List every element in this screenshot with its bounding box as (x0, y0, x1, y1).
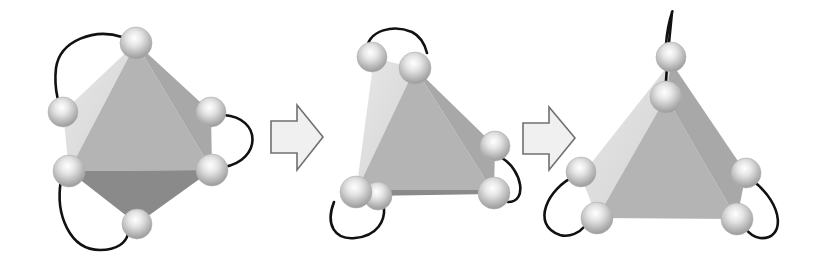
loop-line (745, 180, 778, 238)
vertex-sphere (721, 203, 753, 235)
octahedron-to-tetrahedron-diagram (0, 0, 825, 269)
vertex-sphere (48, 97, 78, 127)
vertex-sphere (656, 42, 686, 72)
diagram-canvas (0, 0, 825, 269)
vertex-sphere (650, 81, 682, 113)
vertex-sphere (196, 97, 226, 127)
vertex-sphere (340, 176, 372, 208)
arrow-1-right-arrow-icon (271, 105, 323, 170)
vertex-sphere (357, 42, 387, 72)
vertex-sphere (53, 155, 85, 187)
vertex-sphere (566, 157, 596, 187)
octahedron-shape (63, 43, 212, 224)
vertex-sphere (478, 177, 510, 209)
vertex-sphere (399, 52, 431, 84)
vertex-sphere (731, 158, 761, 188)
vertex-sphere (122, 209, 152, 239)
vertex-sphere (120, 27, 152, 59)
vertex-sphere (480, 131, 510, 161)
arrow-2-right-arrow-icon (523, 107, 575, 170)
vertex-sphere (196, 154, 228, 186)
vertex-sphere (581, 202, 613, 234)
loop-line (224, 115, 253, 167)
